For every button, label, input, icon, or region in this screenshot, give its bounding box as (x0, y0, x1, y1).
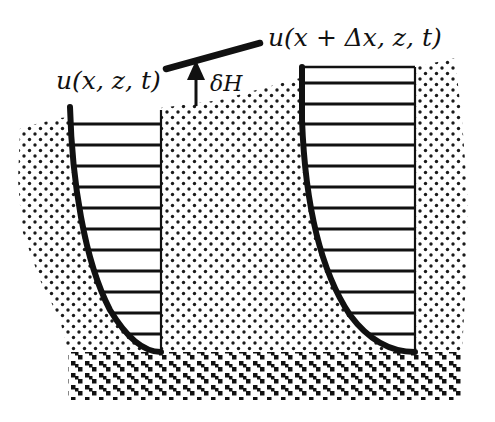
free-surface-segment (166, 43, 260, 69)
coarse-stipple-bed (68, 352, 462, 400)
velocity-profile-diagram: u(x, z, t) δH u(x + Δx, z, t) (0, 0, 495, 422)
delta-h-arrow-icon (187, 60, 205, 106)
label-left-profile: u(x, z, t) (56, 66, 161, 95)
label-right-profile: u(x + Δx, z, t) (268, 23, 442, 52)
label-delta-h: δH (210, 71, 243, 96)
